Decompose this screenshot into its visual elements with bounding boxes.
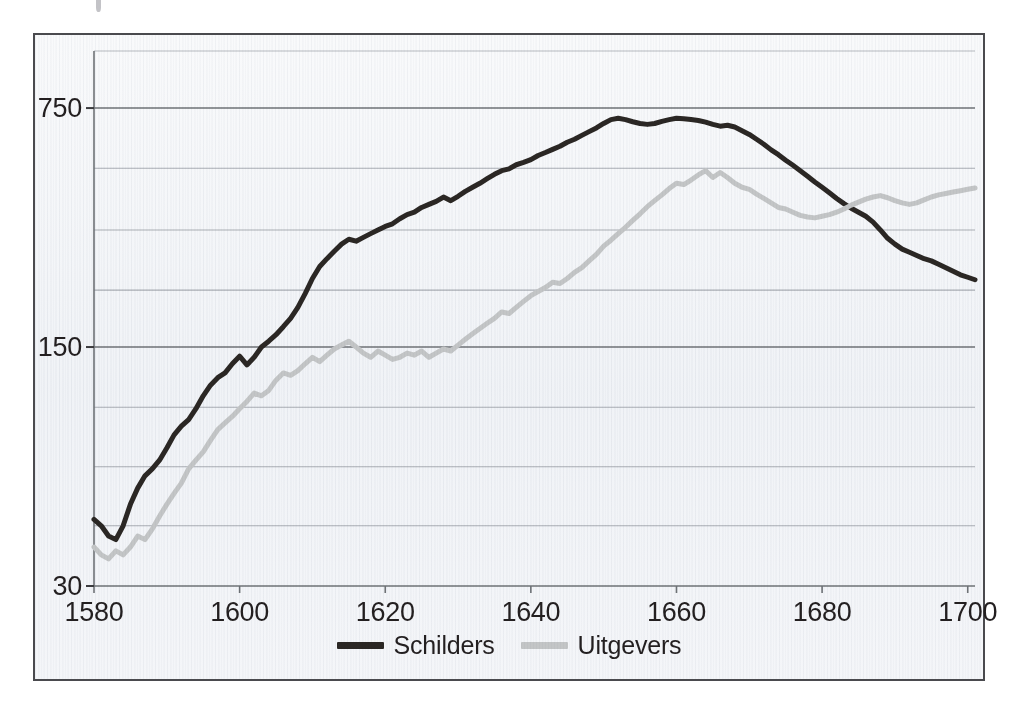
y-tick-label-150: 150 <box>38 332 82 363</box>
gridlines <box>94 51 975 586</box>
legend-entry-schilders[interactable]: Schilders <box>337 631 495 660</box>
x-tick-label-1700: 1700 <box>938 597 997 628</box>
legend-label-uitgevers: Uitgevers <box>578 631 682 660</box>
axis-lines <box>86 51 968 593</box>
legend-label-schilders: Schilders <box>394 631 495 660</box>
x-tick-label-1660: 1660 <box>647 597 706 628</box>
legend-swatch-uitgevers <box>521 642 568 649</box>
y-tick-label-750: 750 <box>38 93 82 124</box>
x-tick-label-1640: 1640 <box>501 597 560 628</box>
plot-area: 75015030 1580160016201640166016801700 <box>35 35 987 683</box>
legend-entry-uitgevers[interactable]: Uitgevers <box>521 631 682 660</box>
x-tick-label-1620: 1620 <box>356 597 415 628</box>
figure-frame: 75015030 1580160016201640166016801700 Sc… <box>33 33 985 681</box>
x-tick-label-1680: 1680 <box>793 597 852 628</box>
scan-artifact-mark <box>96 0 101 12</box>
chart-legend: SchildersUitgevers <box>35 631 983 660</box>
x-tick-label-1580: 1580 <box>65 597 124 628</box>
series-line-schilders <box>94 118 975 539</box>
line-chart-svg <box>35 35 987 683</box>
x-tick-label-1600: 1600 <box>210 597 269 628</box>
legend-swatch-schilders <box>337 642 384 649</box>
series-line-uitgevers <box>94 171 975 559</box>
page-root: 75015030 1580160016201640166016801700 Sc… <box>0 0 1017 712</box>
data-series <box>94 118 975 559</box>
